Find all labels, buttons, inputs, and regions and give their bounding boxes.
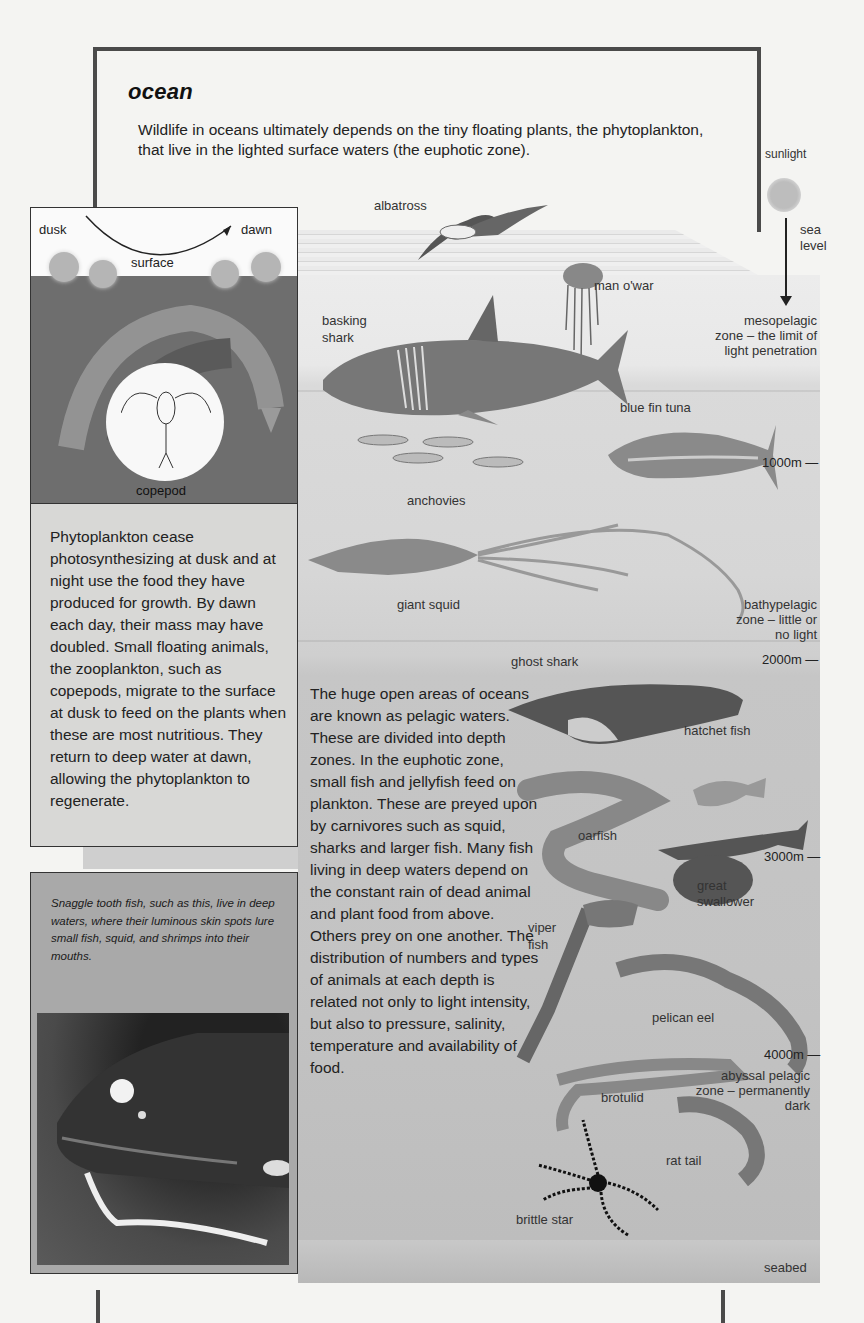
box-shadow bbox=[83, 847, 298, 869]
label-basking-shark-2: shark bbox=[322, 330, 354, 345]
zone-line: bathypelagic bbox=[660, 597, 817, 612]
label-brittle-star: brittle star bbox=[516, 1212, 573, 1227]
zone-label-abyssal: abyssal pelagic zone – permanently dark bbox=[660, 1068, 810, 1113]
anchovies-icon bbox=[358, 435, 523, 467]
frame-border-top bbox=[93, 47, 760, 51]
zone-line: mesopelagic bbox=[660, 313, 817, 328]
label-anchovies: anchovies bbox=[407, 493, 466, 508]
phytoplankton-text: Phytoplankton cease photosynthesizing at… bbox=[50, 526, 290, 812]
label-oarfish: oarfish bbox=[578, 828, 617, 843]
arrow-down-icon bbox=[780, 296, 792, 306]
albatross-icon bbox=[418, 205, 548, 260]
sunlight-label: sunlight bbox=[765, 147, 806, 162]
zone-line: abyssal pelagic bbox=[660, 1068, 810, 1083]
light-arrow-line bbox=[785, 218, 787, 300]
copepod-icon bbox=[121, 373, 211, 473]
label-pelican-eel: pelican eel bbox=[652, 1010, 714, 1025]
phytoplankton-info-box: Phytoplankton cease photosynthesizing at… bbox=[30, 503, 298, 847]
label-brotulid: brotulid bbox=[601, 1090, 644, 1105]
zone-line: no light bbox=[660, 627, 817, 642]
frame-border-bottom-left bbox=[96, 1290, 100, 1323]
zone-line: zone – permanently bbox=[660, 1083, 810, 1098]
snaggletooth-photo-box: Snaggle tooth fish, such as this, live i… bbox=[30, 872, 298, 1274]
label-rat-tail: rat tail bbox=[666, 1153, 701, 1168]
copepod-label: copepod bbox=[136, 483, 186, 498]
pelagic-zones-text: The huge open areas of oceans are known … bbox=[310, 683, 540, 1079]
sea-level-label-1: sea bbox=[800, 222, 821, 237]
depth-marker-1000: 1000m — bbox=[762, 455, 818, 470]
zone-line: dark bbox=[660, 1098, 810, 1113]
rat-tail-icon bbox=[678, 1104, 757, 1180]
label-seabed: seabed bbox=[764, 1260, 807, 1275]
sea-level-label-2: level bbox=[800, 238, 827, 253]
dawn-label: dawn bbox=[241, 222, 272, 237]
depth-marker-4000: 4000m — bbox=[764, 1047, 820, 1062]
depth-marker-2000: 2000m — bbox=[762, 652, 818, 667]
label-man-o-war: man o'war bbox=[594, 278, 654, 293]
label-blue-fin-tuna: blue fin tuna bbox=[620, 400, 691, 415]
page-title: ocean bbox=[128, 79, 193, 105]
zone-line: zone – little or bbox=[660, 612, 817, 627]
label-great-swallower-1: great bbox=[697, 878, 727, 893]
depth-marker-3000: 3000m — bbox=[764, 849, 820, 864]
label-hatchet-fish: hatchet fish bbox=[684, 723, 751, 738]
sun-icon bbox=[767, 178, 801, 212]
label-great-swallower-2: swallower bbox=[697, 894, 754, 909]
blue-fin-tuna-icon bbox=[608, 425, 778, 490]
zone-label-mesopelagic: mesopelagic zone – the limit of light pe… bbox=[660, 313, 817, 358]
zone-line: zone – the limit of bbox=[660, 328, 817, 343]
surface-label: surface bbox=[131, 255, 174, 270]
label-albatross: albatross bbox=[374, 198, 427, 213]
photo-caption: Snaggle tooth fish, such as this, live i… bbox=[51, 895, 279, 965]
dusk-label: dusk bbox=[39, 222, 66, 237]
frame-border-left bbox=[93, 47, 97, 207]
snaggletooth-fish-icon bbox=[37, 1013, 289, 1265]
intro-paragraph: Wildlife in oceans ultimately depends on… bbox=[138, 120, 728, 160]
zone-label-bathypelagic: bathypelagic zone – little or no light bbox=[660, 597, 817, 642]
zone-line: light penetration bbox=[660, 343, 817, 358]
label-ghost-shark: ghost shark bbox=[511, 654, 578, 669]
frame-border-bottom-right bbox=[721, 1290, 725, 1323]
migration-diagram: dusk dawn surface copepod bbox=[30, 207, 298, 505]
snaggletooth-fish-photo bbox=[37, 1013, 289, 1265]
hatchet-fish-icon bbox=[693, 778, 766, 806]
label-basking-shark-1: basking bbox=[322, 313, 367, 328]
label-giant-squid: giant squid bbox=[397, 597, 460, 612]
